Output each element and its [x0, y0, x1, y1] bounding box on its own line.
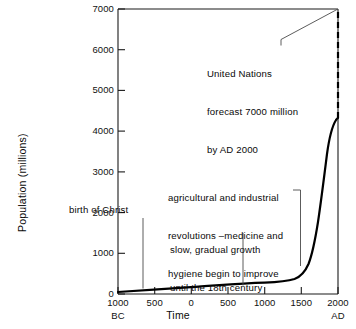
y-tick-label-1000: 1000	[74, 247, 114, 259]
annotation-un-forecast-line1: United Nations	[207, 68, 298, 81]
y-axis-title: Population (millions)	[16, 133, 28, 232]
annotation-agricultural-line1: agricultural and industrial	[168, 192, 283, 205]
annotation-un-forecast: United Nations forecast 7000 million by …	[207, 42, 298, 182]
x-tick-label-1500-ad: 1500	[281, 297, 321, 309]
annotation-un-forecast-line2: forecast 7000 million	[207, 106, 298, 119]
annotation-slow-growth-line2: until the 18th century	[170, 282, 262, 295]
y-tick-label-6000: 6000	[74, 44, 114, 56]
population-growth-chart: 7000 6000 5000 4000 3000 2000 1000 0 100…	[0, 0, 356, 329]
y-tick-label-4000: 4000	[74, 125, 114, 137]
y-tick-label-5000: 5000	[74, 84, 114, 96]
annotation-slow-growth: slow, gradual growth until the 18th cent…	[170, 218, 262, 320]
annotation-un-forecast-line3: by AD 2000	[207, 144, 298, 157]
x-tick-label-1000-bc: 1000	[98, 297, 138, 309]
y-tick-label-7000: 7000	[74, 3, 114, 15]
annotation-slow-growth-line1: slow, gradual growth	[170, 244, 262, 257]
y-tick-label-3000: 3000	[74, 166, 114, 178]
y-axis-ticks	[118, 9, 125, 294]
annotation-birth-of-christ: birth of Christ	[69, 204, 128, 217]
x-tick-label-2000-ad: 2000	[318, 297, 356, 309]
